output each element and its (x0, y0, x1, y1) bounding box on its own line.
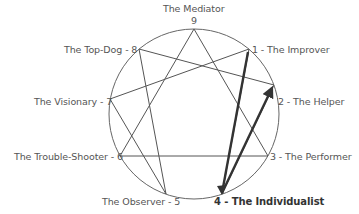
number-9: 9 (191, 15, 197, 26)
enneagram-figure (0, 0, 359, 214)
label-individualist: 4 - The Individualist (214, 196, 324, 207)
hexad-lines (110, 49, 274, 194)
label-mediator: The Mediator (163, 3, 224, 14)
label-visionary: The Visionary - 7 (34, 96, 112, 107)
triangle-9-3-6 (120, 29, 268, 156)
label-improver: 1 - The Improver (252, 44, 330, 55)
label-performer: 3 - The Performer (270, 151, 352, 162)
label-helper: 2 - The Helper (278, 96, 344, 107)
label-top-dog: The Top-Dog - 8 (64, 44, 137, 55)
label-trouble-shooter: The Trouble-Shooter - 6 (14, 151, 123, 162)
arrow-4-to-1 (222, 52, 248, 193)
label-observer: The Observer - 5 (102, 196, 180, 207)
arrow-4-to-2 (222, 88, 272, 193)
enneagram-diagram: The Mediator 9 1 - The Improver 2 - The … (0, 0, 359, 214)
